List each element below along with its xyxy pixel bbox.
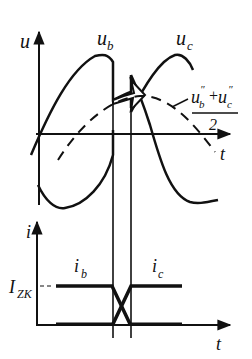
svg-text:b: b	[199, 98, 205, 110]
svg-text:b: b	[107, 38, 114, 53]
curve-i-c	[113, 286, 182, 324]
svg-text:u: u	[97, 27, 107, 49]
svg-text:i: i	[152, 256, 157, 276]
u-axis-label: u	[20, 30, 30, 52]
svg-text:b: b	[81, 267, 87, 281]
svg-text:I: I	[8, 277, 16, 297]
svg-text:″: ″	[200, 83, 205, 95]
label-izk: I ZK	[8, 277, 33, 301]
svg-text:c: c	[227, 98, 232, 110]
svg-text:″: ″	[228, 83, 233, 95]
svg-text:c: c	[158, 267, 164, 281]
curve-u-b	[31, 55, 131, 155]
svg-text:2: 2	[209, 116, 217, 133]
i-axis-label: i	[26, 222, 31, 242]
curve-u-c	[131, 55, 193, 112]
svg-text:ZK: ZK	[17, 287, 33, 301]
svg-text:u: u	[218, 87, 227, 107]
commutation-diagram: u t u b u c u b ″ + u c ″ 2 i t I ZK i b	[0, 0, 252, 359]
label-average: u b ″ + u c ″ 2	[191, 83, 238, 133]
svg-text:i: i	[74, 256, 79, 276]
svg-text:c: c	[187, 38, 193, 53]
lower-axes	[36, 222, 230, 326]
label-u-c: u c	[176, 27, 193, 53]
svg-text:u: u	[176, 27, 186, 49]
label-u-b: u b	[97, 27, 114, 53]
curve-i-b	[56, 286, 130, 324]
upper-axes	[36, 32, 230, 205]
average-label-leader	[172, 99, 188, 107]
t-axis-label-lower: t	[216, 334, 222, 354]
label-i-b: i b	[74, 256, 87, 281]
t-axis-label-upper: t	[220, 144, 226, 164]
curve-u-b-negative	[38, 130, 113, 208]
label-i-c: i c	[152, 256, 164, 281]
